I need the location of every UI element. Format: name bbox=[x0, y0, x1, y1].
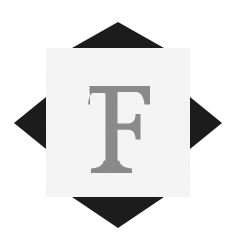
paper-square-texture bbox=[46, 48, 190, 197]
artwork-canvas: F Letter F monogram on square with four … bbox=[0, 0, 235, 249]
monogram-artwork bbox=[0, 0, 235, 249]
